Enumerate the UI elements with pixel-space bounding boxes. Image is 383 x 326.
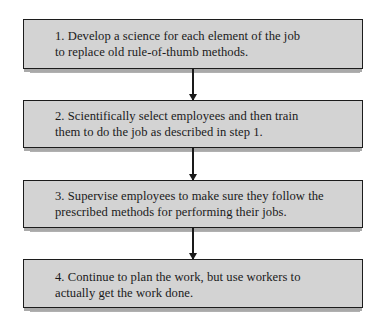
step-2-shadow: [30, 148, 360, 152]
step-1-line-1: 1. Develop a science for each element of…: [55, 28, 354, 44]
flowchart-diagram: 1. Develop a science for each element of…: [0, 0, 383, 326]
step-3-text: 3. Supervise employees to make sure they…: [55, 188, 354, 220]
step-1-shadow: [30, 69, 360, 73]
step-3-shadow: [30, 228, 360, 232]
arrow-step-3-to-4: [192, 228, 194, 259]
step-1-box: 1. Develop a science for each element of…: [23, 19, 363, 69]
step-3-line-2: prescribed methods for performing their …: [55, 204, 354, 220]
step-3-line-1: 3. Supervise employees to make sure they…: [55, 188, 354, 204]
step-2-line-1: 2. Scientifically select employees and t…: [55, 108, 354, 124]
step-4-text: 4. Continue to plan the work, but use wo…: [55, 269, 354, 301]
step-1-line-2: to replace old rule-of-thumb methods.: [55, 44, 354, 60]
step-4-line-2: actually get the work done.: [55, 285, 354, 301]
step-1-text: 1. Develop a science for each element of…: [55, 28, 354, 60]
step-4-shadow: [30, 308, 360, 312]
step-2-box: 2. Scientifically select employees and t…: [23, 100, 363, 148]
step-4-box: 4. Continue to plan the work, but use wo…: [23, 259, 363, 308]
step-3-box: 3. Supervise employees to make sure they…: [23, 180, 363, 228]
step-4-line-1: 4. Continue to plan the work, but use wo…: [55, 269, 354, 285]
step-2-line-2: them to do the job as described in step …: [55, 124, 354, 140]
arrow-step-2-to-3: [192, 148, 194, 180]
arrow-step-1-to-2: [192, 69, 194, 100]
step-2-text: 2. Scientifically select employees and t…: [55, 108, 354, 140]
